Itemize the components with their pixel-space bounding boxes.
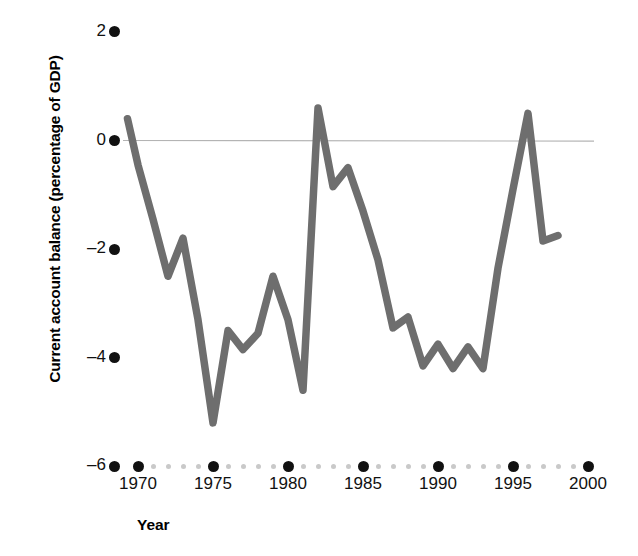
x-tick-label: 1985 — [333, 474, 393, 494]
x-tick-dot-minor — [466, 464, 471, 469]
x-tick-dot-minor — [346, 464, 351, 469]
y-tick-label: –6 — [60, 455, 106, 475]
x-tick-dot-minor — [331, 464, 336, 469]
y-tick-label: 2 — [60, 21, 106, 41]
x-tick-dot-minor — [556, 464, 561, 469]
x-tick-dot-major — [358, 461, 369, 472]
x-tick-dot-major — [133, 461, 144, 472]
x-tick-dot-minor — [196, 464, 201, 469]
x-tick-dot-minor — [526, 464, 531, 469]
x-tick-dot-minor — [571, 464, 576, 469]
x-tick-dot-minor — [256, 464, 261, 469]
x-tick-dot-minor — [271, 464, 276, 469]
y-tick-label: 0 — [60, 130, 106, 150]
x-tick-label: 1990 — [408, 474, 468, 494]
x-tick-dot-major — [508, 461, 519, 472]
x-tick-dot-minor — [421, 464, 426, 469]
x-tick-dot-major — [433, 461, 444, 472]
x-tick-dot-minor — [166, 464, 171, 469]
x-tick-dot-minor — [496, 464, 501, 469]
x-tick-dot-minor — [226, 464, 231, 469]
x-tick-dot-major — [208, 461, 219, 472]
x-tick-dot-minor — [241, 464, 246, 469]
y-tick-dot — [109, 26, 120, 37]
x-tick-dot-minor — [406, 464, 411, 469]
data-series-line — [128, 108, 559, 423]
x-tick-label: 1970 — [108, 474, 168, 494]
y-tick-label: –2 — [60, 238, 106, 258]
x-tick-dot-minor — [376, 464, 381, 469]
x-tick-label: 1980 — [258, 474, 318, 494]
y-tick-dot — [109, 135, 120, 146]
y-tick-dot — [109, 352, 120, 363]
x-tick-label: 1975 — [183, 474, 243, 494]
x-tick-dot-minor — [181, 464, 186, 469]
x-tick-dot-minor — [451, 464, 456, 469]
y-tick-dot — [109, 461, 120, 472]
chart-figure: Current account balance (percentage of G… — [0, 0, 638, 556]
y-tick-dot — [109, 244, 120, 255]
x-tick-dot-minor — [301, 464, 306, 469]
x-tick-dot-minor — [151, 464, 156, 469]
x-tick-dot-minor — [481, 464, 486, 469]
x-tick-label: 2000 — [558, 474, 618, 494]
y-tick-label: –4 — [60, 347, 106, 367]
x-tick-dot-minor — [391, 464, 396, 469]
x-tick-dot-minor — [316, 464, 321, 469]
x-tick-dot-major — [283, 461, 294, 472]
x-tick-dot-minor — [541, 464, 546, 469]
x-tick-label: 1995 — [483, 474, 543, 494]
x-tick-dot-major — [583, 461, 594, 472]
